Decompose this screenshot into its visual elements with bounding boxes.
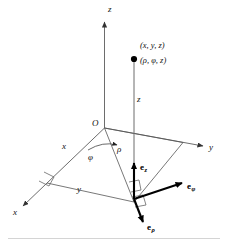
- point-cylindrical-label: (ρ, φ, z): [140, 55, 166, 65]
- unit-vector-ez-label: ez: [140, 162, 147, 173]
- unit-vector-erho-subscript: ρ: [150, 226, 155, 233]
- unit-vector-erho-arrow: [134, 199, 143, 222]
- x-axis-label: x: [12, 207, 17, 217]
- unit-vector-ephi-label: eφ: [187, 181, 195, 192]
- base-plane-top-edge: [105, 128, 184, 143]
- point-cartesian-label: (x, y, z): [140, 40, 165, 50]
- unit-vector-ez-base: e: [140, 162, 144, 172]
- unit-vector-ez-subscript: z: [143, 166, 147, 173]
- origin-label: O: [92, 118, 99, 128]
- base-plane-far-edge: [134, 143, 183, 203]
- base-plane-y-edge: [47, 183, 134, 202]
- phi-angle-label: φ: [88, 152, 93, 162]
- unit-vector-ephi-base: e: [187, 181, 191, 191]
- y-axis-label: y: [208, 142, 213, 152]
- z-axis-label: z: [107, 4, 112, 14]
- unit-vector-ephi-subscript: φ: [191, 185, 195, 192]
- cylindrical-coordinates-figure: z y x O (x, y, z) (ρ, φ, z) z ρ φ x y ez…: [0, 0, 228, 241]
- diagram-canvas: z y x O (x, y, z) (ρ, φ, z) z ρ φ x y ez…: [0, 0, 228, 241]
- rho-measure-label: ρ: [116, 144, 122, 154]
- rho-radial-line: [105, 128, 135, 202]
- unit-vector-erho-label: eρ: [147, 222, 155, 233]
- height-measure-label: z: [136, 94, 141, 104]
- unit-vector-ephi-arrow: [134, 183, 182, 199]
- y-projection-label: y: [76, 184, 81, 194]
- x-projection-label: x: [61, 141, 66, 151]
- point-marker-dot: [131, 56, 137, 62]
- x-axis-line: [23, 128, 105, 206]
- unit-vector-erho-base: e: [147, 222, 151, 232]
